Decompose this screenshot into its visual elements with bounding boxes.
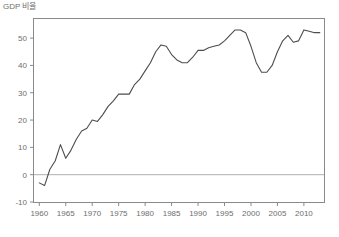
x-tick-label: 1965 <box>57 209 75 218</box>
data-series-line <box>39 30 319 186</box>
y-axis-ticks: -1001020304050 <box>15 34 34 207</box>
x-tick-label: 2010 <box>295 209 313 218</box>
y-tick-label: 20 <box>18 116 27 125</box>
x-tick-label: 1985 <box>163 209 181 218</box>
x-tick-label: 1970 <box>83 209 101 218</box>
x-tick-label: 1975 <box>110 209 128 218</box>
x-tick-label: 1960 <box>30 209 48 218</box>
x-tick-label: 1990 <box>189 209 207 218</box>
line-chart-plot: -1001020304050 1960196519701975198019851… <box>0 0 339 237</box>
chart-figure: GDP 비율 -1001020304050 196019651970197519… <box>0 0 339 237</box>
y-tick-label: 50 <box>18 34 27 43</box>
x-axis-ticks: 1960196519701975198019851990199520002005… <box>30 202 313 218</box>
y-tick-label: 10 <box>18 143 27 152</box>
x-tick-label: 1995 <box>216 209 234 218</box>
x-tick-label: 1980 <box>136 209 154 218</box>
y-tick-label: 0 <box>23 171 28 180</box>
y-tick-label: -10 <box>15 198 27 207</box>
x-tick-label: 2005 <box>269 209 287 218</box>
y-tick-label: 40 <box>18 61 27 70</box>
y-tick-label: 30 <box>18 89 27 98</box>
x-tick-label: 2000 <box>242 209 260 218</box>
